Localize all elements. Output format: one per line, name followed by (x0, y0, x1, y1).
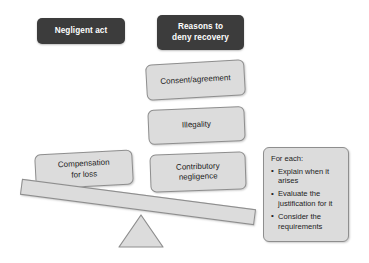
seesaw-fulcrum (118, 214, 164, 248)
side-panel-item: Evaluate the justification for it (271, 189, 342, 208)
node-consent-agreement-label: Consent/agreement (160, 73, 231, 87)
side-panel-item: Consider the requirements (271, 212, 342, 231)
node-consent-agreement: Consent/agreement (145, 59, 246, 100)
side-panel-list: Explain when it arises Evaluate the just… (271, 167, 342, 232)
node-illegality-label: Illegality (182, 120, 211, 132)
node-negligent-act: Negligent act (37, 18, 125, 44)
node-negligent-act-label: Negligent act (55, 26, 108, 37)
node-contributory-negligence-label: Contributory negligence (176, 161, 220, 184)
node-reasons-to-deny-recovery-label: Reasons to deny recovery (172, 22, 229, 43)
node-compensation-for-loss-label: Compensation for loss (58, 158, 111, 182)
side-panel-for-each: For each: Explain when it arises Evaluat… (263, 147, 349, 242)
node-contributory-negligence: Contributory negligence (149, 151, 246, 192)
diagram-canvas: Negligent act Reasons to deny recovery C… (0, 0, 369, 263)
node-reasons-to-deny-recovery: Reasons to deny recovery (157, 15, 244, 50)
triangle-icon (118, 214, 164, 248)
node-illegality: Illegality (147, 106, 245, 145)
side-panel-title: For each: (271, 154, 342, 164)
side-panel-item: Explain when it arises (271, 167, 342, 186)
